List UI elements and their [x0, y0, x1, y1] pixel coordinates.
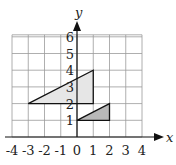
y-tick-label: 4	[66, 63, 74, 78]
y-tick-label: 3	[66, 80, 74, 95]
x-tick-label: -3	[22, 143, 35, 158]
y-tick-label: 6	[66, 30, 74, 45]
x-tick-label: -4	[6, 143, 19, 158]
x-axis-label: x	[166, 130, 174, 145]
y-tick-label: 2	[66, 97, 74, 112]
x-tick-label: 2	[105, 143, 113, 158]
x-tick-label: -1	[54, 143, 67, 158]
y-axis-label: y	[74, 5, 83, 20]
x-tick-labels: -4-3-2-101234	[6, 143, 146, 158]
x-tick-label: -2	[38, 143, 51, 158]
coordinate-plane: x y -4-3-2-101234 123456	[0, 0, 176, 165]
x-tick-label: 1	[89, 143, 97, 158]
y-tick-label: 5	[66, 47, 74, 62]
x-tick-label: 3	[122, 143, 130, 158]
x-tick-label: 4	[138, 143, 146, 158]
y-tick-label: 1	[66, 113, 74, 128]
x-axis-arrow-icon	[154, 133, 164, 141]
y-tick-labels: 123456	[66, 30, 74, 129]
y-axis-arrow-icon	[73, 21, 81, 31]
x-tick-label: 0	[73, 143, 81, 158]
